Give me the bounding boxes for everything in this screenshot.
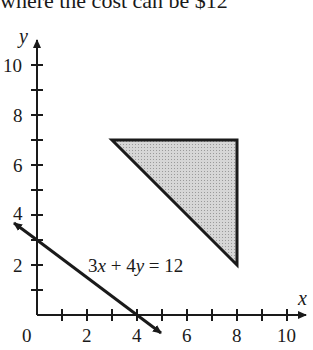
y-tick-label-4: 4	[13, 203, 23, 224]
y-tick-label-6: 6	[13, 155, 23, 176]
shaded-triangle-region	[112, 140, 237, 265]
line-3x-4y-12	[14, 223, 37, 240]
y-axis-label: y	[17, 25, 28, 48]
x-axis-label: x	[297, 287, 307, 309]
line-3x-4y-12-lower	[37, 240, 161, 333]
coordinate-plane: y x 10 8 6 4 2 0 2 4 6 8 10 3x + 4y = 12	[0, 0, 313, 350]
x-tick-label-4: 4	[132, 325, 142, 346]
origin-label: 0	[22, 325, 32, 346]
x-tick-label-10: 10	[277, 325, 296, 346]
equation-label: 3x + 4y = 12	[88, 255, 183, 276]
x-tick-label-8: 8	[232, 325, 242, 346]
y-tick-label-8: 8	[13, 105, 23, 126]
y-tick-label-2: 2	[13, 255, 23, 276]
x-tick-label-6: 6	[182, 325, 192, 346]
y-tick-label-10: 10	[3, 55, 22, 76]
x-tick-label-2: 2	[82, 325, 92, 346]
